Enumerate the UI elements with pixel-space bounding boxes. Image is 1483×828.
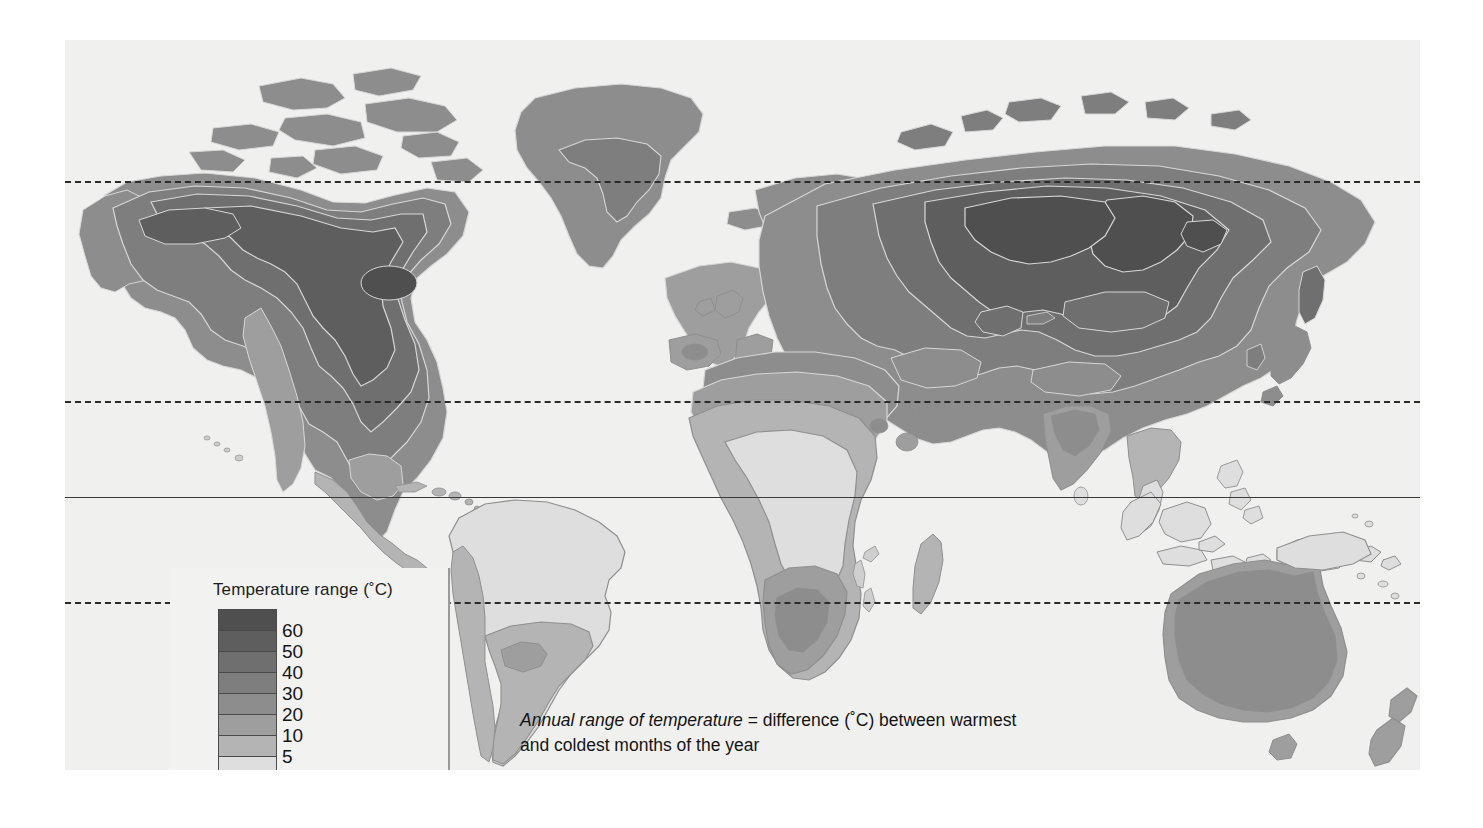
legend-swatch-30-40 (219, 673, 276, 694)
legend-swatch-5-10 (219, 736, 276, 757)
legend-label-5: 5 (282, 746, 303, 767)
legend-label-30: 30 (282, 683, 303, 704)
caption-line2: and coldest months of the year (520, 735, 759, 755)
legend-swatch-10-20 (219, 715, 276, 736)
legend-swatch-60plus (219, 610, 276, 631)
legend-labels: 60 50 40 30 20 10 5 0 (282, 620, 303, 770)
africa-horn-pocket (896, 433, 918, 451)
world-map-panel: Temperature range (˚C) 60 50 40 30 20 10… (65, 40, 1420, 770)
legend-label-0: 0 (282, 767, 303, 770)
legend-label-60: 60 (282, 620, 303, 641)
legend-label-20: 20 (282, 704, 303, 725)
legend-swatch-50-60 (219, 631, 276, 652)
legend-label-10: 10 (282, 725, 303, 746)
caption-italic-term: Annual range of temperature (520, 710, 743, 730)
legend-label-50: 50 (282, 641, 303, 662)
legend-color-bar (218, 609, 277, 770)
na-ungava-pocket (361, 266, 417, 300)
legend-title: Temperature range (˚C) (213, 580, 393, 600)
map-caption: Annual range of temperature = difference… (520, 708, 1080, 758)
asia-tibet-pocket (1031, 362, 1121, 396)
legend-swatch-20-30 (219, 694, 276, 715)
figure-root: Temperature range (˚C) 60 50 40 30 20 10… (0, 0, 1483, 828)
legend-swatch-40-50 (219, 652, 276, 673)
australia-interior-20 (1175, 570, 1337, 712)
sri-lanka (1074, 487, 1088, 505)
caption-line1-rest: = difference (˚C) between warmest (743, 710, 1016, 730)
map-legend: Temperature range (˚C) 60 50 40 30 20 10… (170, 568, 450, 770)
africa-ethiopia-pocket (870, 419, 888, 433)
eu-iberia-inner (682, 344, 708, 360)
legend-swatch-0-5 (219, 757, 276, 770)
legend-label-40: 40 (282, 662, 303, 683)
